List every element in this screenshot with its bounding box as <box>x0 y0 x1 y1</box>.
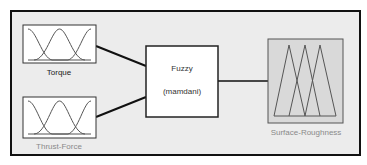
connector-thrust-to-fis <box>96 97 146 117</box>
fis-diagram-canvas <box>0 0 367 165</box>
input-label-thrust-force: Thrust-Force <box>36 142 82 152</box>
output-label-surface-roughness: Surface-Roughness <box>271 128 342 138</box>
input-block-torque[interactable] <box>23 25 96 63</box>
fis-name-label: Fuzzy <box>171 64 192 74</box>
input-block-thrust-force[interactable] <box>23 97 96 138</box>
output-block-surface-roughness[interactable] <box>268 39 343 123</box>
fis-system-block[interactable] <box>146 46 218 117</box>
input-label-torque: Torque <box>47 68 71 78</box>
fis-method-label: (mamdani) <box>163 87 201 97</box>
connector-torque-to-fis <box>96 46 146 66</box>
